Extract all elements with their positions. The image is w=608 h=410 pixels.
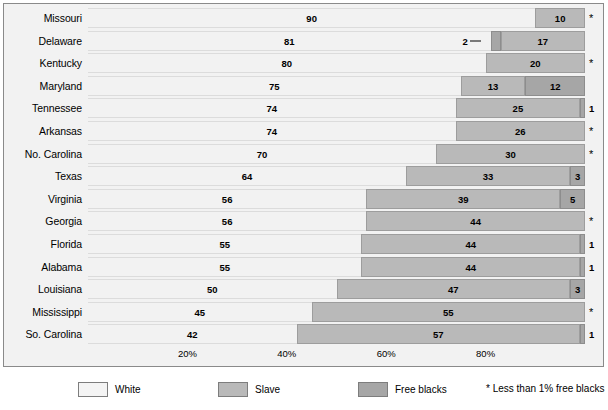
bar-segment-slave: 25 — [456, 98, 580, 118]
row-label-alabama: Alabama — [0, 261, 82, 273]
segment-value: 3 — [575, 284, 580, 295]
stacked-bar: 7426 — [88, 121, 585, 141]
segment-value: 56 — [222, 193, 233, 204]
segment-value: 47 — [448, 284, 459, 295]
segment-value: 39 — [458, 193, 469, 204]
row-label-kentucky: Kentucky — [0, 57, 82, 69]
segment-value: 20 — [530, 58, 541, 69]
legend-item-white[interactable]: White — [78, 382, 141, 397]
bar-row: Missouri9010* — [0, 7, 608, 29]
segment-value: 13 — [488, 80, 499, 91]
segment-value: 81 — [284, 35, 295, 46]
row-label-tennessee: Tennessee — [0, 102, 82, 114]
bar-segment-free: 5 — [560, 189, 585, 209]
legend-item-free-blacks[interactable]: Free blacks — [358, 382, 447, 397]
segment-value: 75 — [269, 80, 280, 91]
bar-segment-white: 74 — [88, 121, 456, 141]
bar-segment-white: 70 — [88, 144, 436, 164]
segment-value: 12 — [550, 80, 561, 91]
bar-segment-white: 56 — [88, 211, 366, 231]
stacked-bar: 8117 — [88, 31, 585, 51]
bar-segment-slave: 30 — [436, 144, 585, 164]
segment-value: 56 — [222, 216, 233, 227]
row-label-texas: Texas — [0, 170, 82, 182]
bar-row: Louisiana50473 — [0, 278, 608, 300]
segment-value: 10 — [555, 13, 566, 24]
segment-value: 74 — [267, 103, 278, 114]
stacked-bar: 4555 — [88, 302, 585, 322]
x-axis: 20%40%60%80% — [0, 348, 608, 364]
segment-value: 26 — [515, 126, 526, 137]
footnote-asterisk: * — [589, 57, 593, 69]
segment-value: 44 — [465, 239, 476, 250]
bar-segment-free — [491, 31, 501, 51]
row-outside-value: 1 — [589, 103, 594, 114]
footnote-asterisk: * — [589, 12, 593, 24]
bar-segment-free: 3 — [570, 279, 585, 299]
bar-segment-free — [580, 257, 585, 277]
segment-value: 33 — [483, 171, 494, 182]
bar-segment-slave: 10 — [535, 8, 585, 28]
bar-row: Alabama55441 — [0, 256, 608, 278]
bar-segment-white: 81 — [88, 31, 491, 51]
legend-item-slave[interactable]: Slave — [218, 382, 280, 397]
segment-value: 55 — [443, 306, 454, 317]
bar-row: Tennessee74251 — [0, 97, 608, 119]
footnote-asterisk: * — [589, 148, 593, 160]
bar-segment-white: 55 — [88, 234, 361, 254]
bar-segment-slave: 17 — [501, 31, 585, 51]
segment-value: 70 — [257, 148, 268, 159]
x-tick-label: 20% — [178, 348, 197, 359]
segment-value: 25 — [513, 103, 524, 114]
stacked-bar: 7030 — [88, 144, 585, 164]
row-label-delaware: Delaware — [0, 35, 82, 47]
stacked-bar: 56395 — [88, 189, 585, 209]
bar-segment-slave: 44 — [366, 211, 585, 231]
bar-segment-white: 75 — [88, 76, 461, 96]
bar-row: Virginia56395 — [0, 188, 608, 210]
segment-value: 64 — [242, 171, 253, 182]
bar-segment-white: 50 — [88, 279, 337, 299]
stacked-bar: 5644 — [88, 211, 585, 231]
bar-segment-white: 80 — [88, 53, 486, 73]
segment-value: 42 — [187, 329, 198, 340]
segment-value: 57 — [433, 329, 444, 340]
segment-value: 55 — [219, 239, 230, 250]
callout-leader-line — [470, 40, 481, 41]
legend-label: Slave — [255, 384, 280, 395]
stacked-bar: 4257 — [88, 324, 585, 344]
bar-row: Arkansas7426* — [0, 120, 608, 142]
row-outside-value: 1 — [589, 261, 594, 272]
chart-root: Missouri9010*Delaware81172Kentucky8020*M… — [0, 0, 608, 410]
stacked-bar: 7425 — [88, 98, 585, 118]
bar-segment-free — [580, 98, 585, 118]
segment-value: 17 — [537, 35, 548, 46]
bar-row: Delaware81172 — [0, 30, 608, 52]
bar-segment-slave: 44 — [361, 234, 580, 254]
segment-value: 55 — [219, 261, 230, 272]
segment-value: 44 — [470, 216, 481, 227]
bar-segment-slave: 55 — [312, 302, 585, 322]
bar-segment-white: 45 — [88, 302, 312, 322]
stacked-bar: 9010 — [88, 8, 585, 28]
legend-label: Free blacks — [395, 384, 447, 395]
segment-value: 74 — [267, 126, 278, 137]
row-label-georgia: Georgia — [0, 215, 82, 227]
row-outside-value: 1 — [589, 329, 594, 340]
row-label-florida: Florida — [0, 238, 82, 250]
row-label-maryland: Maryland — [0, 80, 82, 92]
segment-value: 3 — [575, 171, 580, 182]
legend-swatch — [78, 382, 108, 397]
segment-value: 80 — [282, 58, 293, 69]
bar-segment-free: 3 — [570, 166, 585, 186]
bar-segment-slave: 26 — [456, 121, 585, 141]
bar-segment-slave: 47 — [337, 279, 571, 299]
segment-value: 44 — [465, 261, 476, 272]
bar-segment-slave: 33 — [406, 166, 570, 186]
stacked-bar: 5544 — [88, 257, 585, 277]
bar-segment-free — [580, 324, 585, 344]
bar-row: No. Carolina7030* — [0, 143, 608, 165]
bar-row: Florida55441 — [0, 233, 608, 255]
bar-segment-slave: 39 — [366, 189, 560, 209]
bar-segment-slave: 44 — [361, 257, 580, 277]
